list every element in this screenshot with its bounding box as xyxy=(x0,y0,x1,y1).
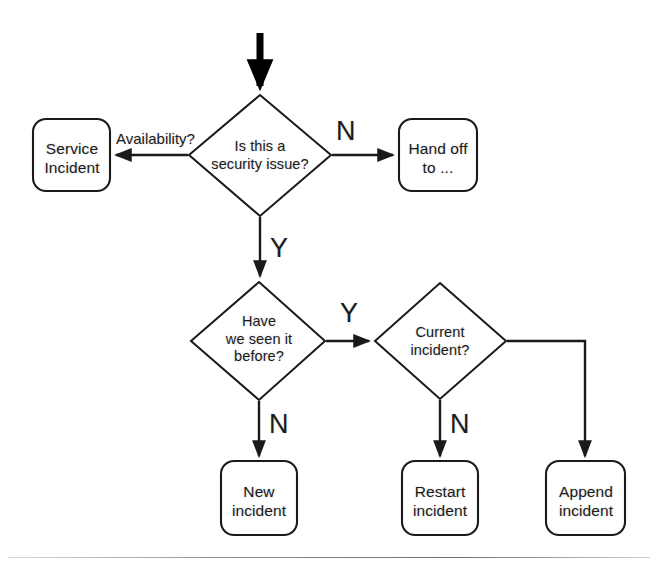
node-append-incident[interactable] xyxy=(546,461,625,535)
node-current-incident-question[interactable] xyxy=(375,283,506,399)
node-service-incident[interactable] xyxy=(33,119,110,191)
node-hand-off[interactable] xyxy=(399,119,477,191)
edge-current-incident-to-append-incident xyxy=(507,341,585,456)
node-new-incident[interactable] xyxy=(221,461,297,535)
node-seen-before-question[interactable] xyxy=(191,282,325,400)
page-divider-rule xyxy=(8,557,650,558)
flowchart-canvas: Service Incident Is this a security issu… xyxy=(0,0,656,572)
node-restart-incident[interactable] xyxy=(402,461,478,535)
node-security-question[interactable] xyxy=(189,95,331,216)
